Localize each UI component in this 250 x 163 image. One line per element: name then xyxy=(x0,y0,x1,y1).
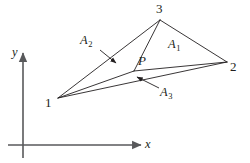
a2-leader-line xyxy=(100,50,116,63)
x-axis-label: x xyxy=(145,138,151,151)
vertex-label-2: 2 xyxy=(230,60,237,73)
area-label-a1-base: A xyxy=(168,37,176,51)
triangle-diagram-svg xyxy=(0,0,250,163)
area-label-a2-base: A xyxy=(80,33,88,47)
figure-canvas: 1 2 3 P A1 A2 A3 x y xyxy=(0,0,250,163)
vertex-label-3: 3 xyxy=(156,2,163,15)
area-label-a1-subscript: 1 xyxy=(176,43,180,53)
segment-P-2 xyxy=(134,62,227,71)
area-label-a3-subscript: 3 xyxy=(168,91,172,101)
coordinate-axes xyxy=(8,53,141,158)
area-label-a2-subscript: 2 xyxy=(88,39,92,49)
y-axis-label: y xyxy=(12,46,18,59)
point-label-p: P xyxy=(138,54,146,67)
vertex-label-1: 1 xyxy=(45,96,52,109)
area-label-a3: A3 xyxy=(160,86,172,99)
area-label-a1: A1 xyxy=(168,38,180,51)
area-label-a2: A2 xyxy=(80,34,92,47)
area-label-a3-base: A xyxy=(160,85,168,99)
